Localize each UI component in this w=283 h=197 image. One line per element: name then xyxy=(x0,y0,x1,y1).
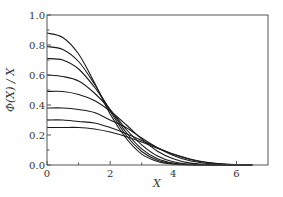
curves xyxy=(47,33,252,165)
y-tick-label: 0.4 xyxy=(29,100,45,111)
data-line-curve-2 xyxy=(47,47,252,166)
x-axis-label: X xyxy=(152,177,162,190)
y-axis-label: Φ(X) / X xyxy=(4,67,17,112)
x-tick-label: 6 xyxy=(233,168,239,179)
x-tick-label: 2 xyxy=(107,168,113,179)
y-tick-label: 0.2 xyxy=(29,130,45,141)
data-line-curve-3 xyxy=(47,59,252,166)
data-line-curve-4 xyxy=(47,75,252,165)
y-tick-label: 1.0 xyxy=(29,10,45,21)
y-tick-label: 0.6 xyxy=(29,70,45,81)
y-tick-label: 0.8 xyxy=(29,40,45,51)
plot-frame xyxy=(47,15,268,165)
x-tick-label: 4 xyxy=(170,168,176,179)
line-chart: 0246 0.00.20.40.60.81.0 X Φ(X) / X xyxy=(0,0,283,197)
y-tick-label: 0.0 xyxy=(29,160,45,171)
